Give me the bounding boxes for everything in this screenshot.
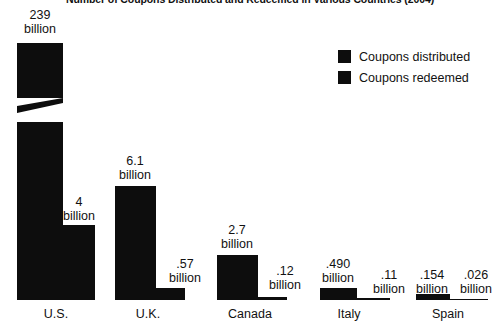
value-unit: billion bbox=[447, 283, 500, 297]
value-unit: billion bbox=[8, 23, 72, 37]
bar-spain-redeemed[interactable] bbox=[450, 299, 488, 300]
axis-break-icon bbox=[17, 98, 63, 122]
value-label-us-redeemed: 4 billion bbox=[50, 196, 108, 223]
value-label-spain-redeemed: .026 billion bbox=[447, 269, 500, 296]
value-number: .57 bbox=[158, 258, 212, 272]
value-unit: billion bbox=[50, 210, 108, 224]
value-unit: billion bbox=[258, 279, 312, 293]
value-label-canada-redeemed: .12 billion bbox=[258, 265, 312, 292]
category-label-italy: Italy bbox=[314, 307, 384, 321]
category-label-spain: Spain bbox=[412, 307, 484, 321]
value-number: .026 bbox=[447, 269, 500, 283]
value-number: 4 bbox=[50, 196, 108, 210]
bar-italy-redeemed[interactable] bbox=[357, 298, 390, 300]
plot-area: U.S. 239 billion 4 billion U.K. 6.1 bill… bbox=[0, 0, 500, 330]
value-label-italy-distributed: .490 billion bbox=[308, 258, 368, 285]
value-number: 6.1 bbox=[105, 155, 165, 169]
value-label-uk-redeemed: .57 billion bbox=[158, 258, 212, 285]
bar-us-redeemed[interactable] bbox=[63, 225, 95, 300]
value-label-uk-distributed: 6.1 billion bbox=[105, 155, 165, 182]
value-number: 2.7 bbox=[207, 224, 267, 238]
bar-canada-distributed[interactable] bbox=[217, 255, 258, 300]
bar-us-distributed[interactable] bbox=[17, 43, 63, 300]
value-number: .12 bbox=[258, 265, 312, 279]
bar-canada-redeemed[interactable] bbox=[258, 297, 287, 300]
value-label-canada-distributed: 2.7 billion bbox=[207, 224, 267, 251]
category-label-us: U.S. bbox=[17, 307, 95, 321]
value-unit: billion bbox=[105, 169, 165, 183]
value-number: .490 bbox=[308, 258, 368, 272]
bar-italy-distributed[interactable] bbox=[320, 288, 357, 300]
value-unit: billion bbox=[158, 272, 212, 286]
bar-uk-distributed[interactable] bbox=[115, 186, 156, 300]
value-number: 239 bbox=[8, 9, 72, 23]
coupons-bar-chart: Number of Coupons Distributed and Redeem… bbox=[0, 0, 500, 330]
value-unit: billion bbox=[308, 272, 368, 286]
category-label-uk: U.K. bbox=[113, 307, 183, 321]
category-label-canada: Canada bbox=[210, 307, 290, 321]
bar-group-us: U.S. bbox=[17, 0, 95, 330]
value-unit: billion bbox=[207, 238, 267, 252]
bar-uk-redeemed[interactable] bbox=[156, 288, 185, 300]
value-label-us-distributed: 239 billion bbox=[8, 9, 72, 36]
